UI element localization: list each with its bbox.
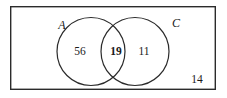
venn-diagram-figure: A C 56 19 11 14: [0, 0, 227, 98]
set-label-a: A: [58, 19, 65, 31]
region-count-outside: 14: [191, 74, 203, 86]
region-count-intersection: 19: [110, 46, 122, 58]
set-label-c: C: [172, 17, 180, 29]
region-count-a-only: 56: [74, 46, 86, 58]
region-count-c-only: 11: [138, 46, 149, 58]
